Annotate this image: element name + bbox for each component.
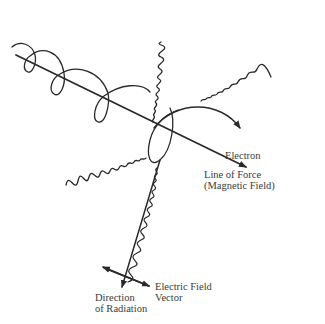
- direction-of-radiation-label: Direction of Radiation: [95, 292, 147, 314]
- wave-top: [153, 42, 165, 122]
- electron-arrow: [154, 107, 240, 128]
- electric-field-label-line2: Vector: [155, 292, 212, 303]
- electric-field-label: Electric Field Vector: [155, 281, 212, 303]
- line-of-force-label-line1: Line of Force: [204, 169, 275, 180]
- line-of-force-label-line2: (Magnetic Field): [204, 180, 275, 191]
- line-of-force-label: Line of Force (Magnetic Field): [204, 169, 275, 191]
- magnetic-field-line: [16, 55, 246, 167]
- electron-final-loop: [148, 108, 178, 163]
- direction-label-line2: of Radiation: [95, 303, 147, 314]
- wave-left: [66, 158, 146, 185]
- electric-field-label-line1: Electric Field: [155, 281, 212, 292]
- electron-label: Electron: [225, 150, 261, 161]
- wave-right: [201, 64, 271, 101]
- electric-field-vector-tail: [103, 267, 149, 286]
- direction-label-line1: Direction: [95, 292, 147, 303]
- synchrotron-diagram: Electron Line of Force (Magnetic Field) …: [0, 0, 325, 324]
- radiation-direction-arrow: [122, 160, 160, 287]
- diagram-drawing: [0, 0, 325, 324]
